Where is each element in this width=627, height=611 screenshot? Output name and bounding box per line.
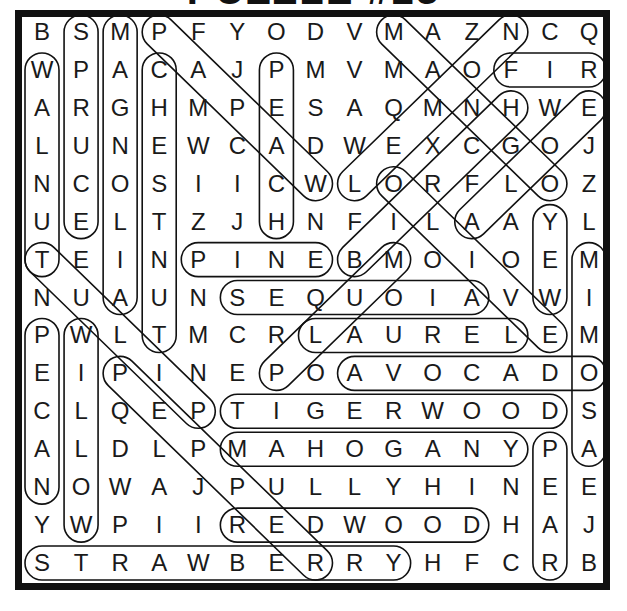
grid-cell[interactable]: D xyxy=(296,13,335,51)
grid-cell[interactable]: I xyxy=(179,165,218,203)
grid-cell[interactable]: J xyxy=(218,51,257,89)
grid-cell[interactable]: M xyxy=(101,13,140,51)
grid-cell[interactable]: V xyxy=(491,279,530,317)
grid-cell[interactable]: H xyxy=(491,89,530,127)
grid-cell[interactable]: S xyxy=(296,89,335,127)
grid-cell[interactable]: N xyxy=(140,241,179,279)
grid-cell[interactable]: C xyxy=(257,165,296,203)
grid-cell[interactable]: T xyxy=(62,544,101,582)
grid-cell[interactable]: L xyxy=(569,203,608,241)
grid-cell[interactable]: M xyxy=(413,89,452,127)
grid-cell[interactable]: N xyxy=(452,89,491,127)
grid-cell[interactable]: H xyxy=(257,203,296,241)
grid-cell[interactable]: C xyxy=(62,165,101,203)
grid-cell[interactable]: F xyxy=(335,203,374,241)
grid-cell[interactable]: H xyxy=(140,89,179,127)
grid-cell[interactable]: C xyxy=(452,354,491,392)
grid-cell[interactable]: I xyxy=(140,506,179,544)
grid-cell[interactable]: W xyxy=(23,51,62,89)
grid-cell[interactable]: P xyxy=(257,51,296,89)
grid-cell[interactable]: E xyxy=(257,89,296,127)
grid-cell[interactable]: U xyxy=(257,468,296,506)
grid-cell[interactable]: O xyxy=(452,51,491,89)
grid-cell[interactable]: R xyxy=(218,506,257,544)
grid-cell[interactable]: C xyxy=(218,127,257,165)
grid-cell[interactable]: N xyxy=(23,279,62,317)
grid-cell[interactable]: A xyxy=(335,316,374,354)
grid-cell[interactable]: E xyxy=(257,279,296,317)
grid-cell[interactable]: A xyxy=(140,468,179,506)
grid-cell[interactable]: P xyxy=(218,89,257,127)
grid-cell[interactable]: R xyxy=(101,544,140,582)
grid-cell[interactable]: J xyxy=(569,127,608,165)
grid-cell[interactable]: A xyxy=(530,506,569,544)
grid-cell[interactable]: B xyxy=(23,13,62,51)
grid-cell[interactable]: A xyxy=(413,430,452,468)
grid-cell[interactable]: E xyxy=(140,392,179,430)
grid-cell[interactable]: G xyxy=(374,430,413,468)
grid-cell[interactable]: W xyxy=(62,506,101,544)
grid-cell[interactable]: O xyxy=(374,279,413,317)
grid-cell[interactable]: A xyxy=(23,89,62,127)
grid-cell[interactable]: E xyxy=(569,89,608,127)
grid-cell[interactable]: E xyxy=(62,241,101,279)
grid-cell[interactable]: L xyxy=(23,127,62,165)
grid-cell[interactable]: E xyxy=(62,203,101,241)
grid-cell[interactable]: C xyxy=(140,51,179,89)
grid-cell[interactable]: L xyxy=(101,316,140,354)
grid-cell[interactable]: Q xyxy=(374,89,413,127)
grid-cell[interactable]: V xyxy=(335,51,374,89)
grid-cell[interactable]: I xyxy=(413,279,452,317)
grid-cell[interactable]: P xyxy=(101,354,140,392)
grid-cell[interactable]: I xyxy=(140,354,179,392)
grid-cell[interactable]: F xyxy=(452,165,491,203)
grid-cell[interactable]: N xyxy=(296,203,335,241)
grid-cell[interactable]: O xyxy=(374,165,413,203)
grid-cell[interactable]: O xyxy=(101,165,140,203)
grid-cell[interactable]: I xyxy=(374,203,413,241)
grid-cell[interactable]: Z xyxy=(569,165,608,203)
grid-cell[interactable]: Q xyxy=(296,279,335,317)
grid-cell[interactable]: E xyxy=(218,354,257,392)
grid-cell[interactable]: A xyxy=(335,89,374,127)
grid-cell[interactable]: L xyxy=(140,430,179,468)
grid-cell[interactable]: H xyxy=(296,430,335,468)
grid-cell[interactable]: I xyxy=(101,241,140,279)
grid-cell[interactable]: N xyxy=(491,468,530,506)
grid-cell[interactable]: M xyxy=(296,51,335,89)
grid-cell[interactable]: W xyxy=(62,316,101,354)
grid-cell[interactable]: R xyxy=(530,544,569,582)
grid-cell[interactable]: C xyxy=(452,127,491,165)
grid-cell[interactable]: E xyxy=(374,127,413,165)
grid-cell[interactable]: Z xyxy=(179,203,218,241)
grid-cell[interactable]: E xyxy=(530,241,569,279)
grid-cell[interactable]: G xyxy=(296,392,335,430)
grid-cell[interactable]: Q xyxy=(569,13,608,51)
grid-cell[interactable]: M xyxy=(179,89,218,127)
grid-cell[interactable]: W xyxy=(530,279,569,317)
grid-cell[interactable]: L xyxy=(335,468,374,506)
grid-cell[interactable]: U xyxy=(335,279,374,317)
grid-cell[interactable]: E xyxy=(257,544,296,582)
grid-cell[interactable]: S xyxy=(140,165,179,203)
grid-cell[interactable]: B xyxy=(335,241,374,279)
grid-cell[interactable]: D xyxy=(530,354,569,392)
grid-cell[interactable]: T xyxy=(140,203,179,241)
grid-cell[interactable]: J xyxy=(218,203,257,241)
grid-cell[interactable]: T xyxy=(140,316,179,354)
grid-cell[interactable]: L xyxy=(296,316,335,354)
grid-cell[interactable]: O xyxy=(335,430,374,468)
grid-cell[interactable]: W xyxy=(101,468,140,506)
grid-cell[interactable]: L xyxy=(62,430,101,468)
grid-cell[interactable]: U xyxy=(140,279,179,317)
grid-cell[interactable]: A xyxy=(257,127,296,165)
grid-cell[interactable]: R xyxy=(62,89,101,127)
grid-cell[interactable]: N xyxy=(257,241,296,279)
grid-cell[interactable]: F xyxy=(452,544,491,582)
grid-cell[interactable]: M xyxy=(569,316,608,354)
grid-cell[interactable]: T xyxy=(218,392,257,430)
grid-cell[interactable]: E xyxy=(296,241,335,279)
grid-cell[interactable]: W xyxy=(179,127,218,165)
grid-cell[interactable]: N xyxy=(179,279,218,317)
grid-cell[interactable]: D xyxy=(296,506,335,544)
